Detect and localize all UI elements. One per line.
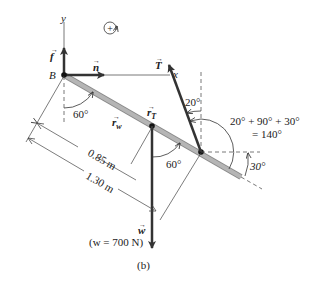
vector-rT-arrow-mark: → [148,103,155,111]
pivot-point-b [61,72,67,78]
vector-w-arrow-mark: → [139,221,146,229]
angle-arc-b [64,92,93,108]
angle-b-label: 60° [73,108,88,120]
vector-f-arrow-mark: → [51,46,58,54]
angle-arc-20 [187,111,201,113]
free-body-diagram: + y x B f → n → 60° rT → rw → w → (w = 7… [0,0,313,282]
angle-arc-cm [152,143,180,157]
weight-value-note: (w = 700 N) [89,236,144,249]
vector-n-arrow-mark: → [93,57,100,65]
angle-arc-30 [245,153,248,176]
rotation-direction-icon: + [104,22,117,34]
origin-label: B [49,69,56,81]
angle-sum-line2: = 140° [252,128,282,140]
rotation-sign: + [107,23,113,34]
angle-cm-label: 60° [166,158,181,170]
angle-sum-line1: 20° + 90° + 30° [230,115,300,127]
dimension-lines [26,76,201,220]
rod-extension-line [241,177,262,189]
dimension-130-label: 1.30 m [84,169,117,195]
angle-30-label: 30° [249,160,266,172]
vector-T-arrow-mark: → [156,55,163,63]
figure-caption: (b) [137,259,150,272]
dim-arrow-085-start [37,123,44,129]
vector-rw-arrow-mark: → [113,113,120,121]
y-axis-label: y [60,12,66,24]
angle-20-label: 20° [185,96,200,108]
dimension-085-label: 0.85 m [86,146,119,172]
dim-arrow-130-start [28,138,35,144]
